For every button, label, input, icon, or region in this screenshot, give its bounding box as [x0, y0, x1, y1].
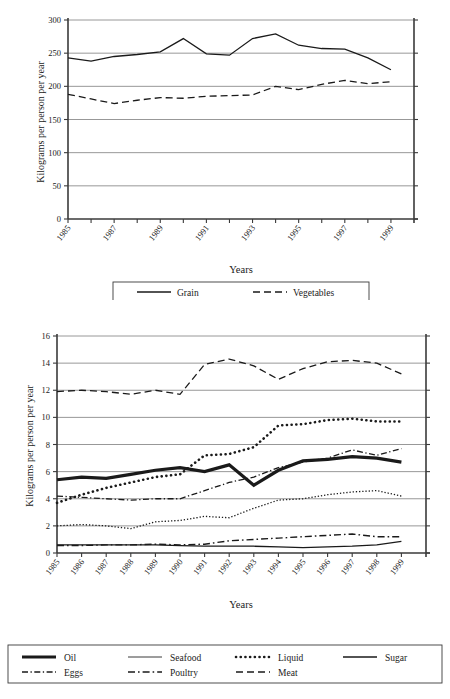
y-tick-label: 100: [48, 148, 61, 158]
legend-item-grain: Grain: [137, 288, 199, 298]
legend-label: Vegetables: [293, 288, 334, 298]
top-chart-x-tick-labels: 19851987198919911993199519971999: [54, 223, 395, 243]
legend-item-seafood: Seafood: [128, 653, 201, 663]
x-tick-label: 1995: [289, 557, 307, 577]
y-tick-label: 2: [46, 521, 50, 531]
top-chart-y-tick-labels: 050100150200250300: [48, 15, 61, 224]
legend-label: Liquid: [278, 653, 304, 663]
x-tick-label: 1999: [388, 557, 406, 577]
chart-page: 050100150200250300 198519871989199119931…: [0, 0, 450, 699]
series-line-oil: [57, 457, 401, 485]
y-tick-label: 250: [48, 48, 61, 58]
top-chart-x-axis-label: Years: [229, 264, 252, 275]
legend-label: Poultry: [170, 668, 198, 678]
legend-label: Seafood: [170, 653, 201, 663]
y-tick-label: 0: [57, 214, 61, 224]
x-tick-label: 1995: [285, 223, 303, 243]
legend-item-vegetables: Vegetables: [253, 288, 334, 298]
bottom-chart-svg: 0246810121416 19851986198719881989199019…: [0, 318, 450, 699]
x-tick-label: 1991: [191, 557, 209, 577]
x-tick-label: 1985: [54, 223, 72, 243]
x-tick-label: 1989: [146, 223, 164, 243]
y-tick-label: 8: [46, 440, 50, 450]
x-tick-label: 1988: [117, 557, 135, 577]
y-tick-label: 16: [42, 331, 51, 341]
legend-item-poultry: Poultry: [128, 668, 198, 678]
top-chart-svg: 050100150200250300 198519871989199119931…: [0, 0, 450, 300]
bottom-chart-legend: OilSeafoodLiquidSugarEggsPoultryMeat: [8, 645, 442, 683]
series-line-sugar: [57, 541, 401, 547]
bottom-chart-x-axis-label: Years: [229, 599, 252, 610]
bottom-chart-y-axis-label: Kilograms per person per year: [24, 385, 35, 507]
top-chart-y-axis-label: Kilograms per person per year: [35, 61, 46, 183]
legend-label: Sugar: [385, 653, 408, 663]
bottom-chart-axes: [53, 334, 430, 557]
x-tick-label: 1987: [100, 223, 118, 243]
legend-label: Oil: [64, 653, 77, 663]
y-tick-label: 14: [42, 358, 51, 368]
top-chart-axes: [64, 18, 418, 223]
x-tick-label: 1999: [377, 223, 395, 243]
series-line-meat: [57, 359, 401, 394]
top-chart-gridlines: [68, 20, 414, 186]
x-tick-label: 1997: [338, 557, 356, 577]
bottom-chart-gridlines: [57, 336, 426, 526]
x-tick-label: 1993: [239, 223, 257, 243]
bottom-chart-y-tick-labels: 0246810121416: [42, 331, 51, 558]
legend-label: Grain: [177, 288, 199, 298]
series-line-liquid: [57, 419, 401, 503]
legend-item-eggs: Eggs: [22, 668, 83, 678]
x-tick-label: 1998: [363, 557, 381, 577]
y-tick-label: 12: [42, 385, 51, 395]
x-tick-label: 1997: [331, 223, 349, 243]
y-tick-label: 10: [42, 412, 51, 422]
top-chart-figure: 050100150200250300 198519871989199119931…: [0, 0, 450, 300]
x-tick-label: 1985: [43, 557, 61, 577]
y-tick-label: 50: [53, 181, 62, 191]
series-line-grain: [68, 34, 391, 70]
y-tick-label: 4: [46, 494, 51, 504]
legend-item-sugar: Sugar: [343, 653, 408, 663]
y-tick-label: 0: [46, 548, 50, 558]
x-tick-label: 1991: [193, 223, 211, 243]
series-line-vegetables: [68, 80, 391, 103]
series-line-poultry: [57, 534, 401, 546]
y-tick-label: 300: [48, 15, 61, 25]
series-line-seafood: [57, 491, 401, 529]
x-tick-label: 1986: [68, 557, 86, 577]
legend-label: Meat: [278, 668, 298, 678]
y-tick-label: 150: [48, 115, 61, 125]
x-tick-label: 1987: [92, 557, 110, 577]
y-tick-label: 200: [48, 81, 61, 91]
top-chart-legend: GrainVegetables: [113, 282, 369, 300]
x-tick-label: 1992: [215, 557, 233, 577]
bottom-chart-series-group: [57, 359, 401, 548]
x-tick-label: 1990: [166, 557, 184, 577]
legend-item-oil: Oil: [22, 653, 77, 663]
x-tick-label: 1996: [314, 557, 332, 577]
legend-item-liquid: Liquid: [236, 653, 304, 663]
top-chart-series-group: [68, 34, 391, 104]
legend-item-meat: Meat: [236, 668, 298, 678]
legend-label: Eggs: [64, 668, 83, 678]
x-tick-label: 1994: [265, 556, 284, 576]
x-tick-label: 1989: [142, 557, 160, 577]
bottom-chart-figure: 0246810121416 19851986198719881989199019…: [0, 318, 450, 699]
bottom-chart-x-tick-labels: 1985198619871988198919901991199219931994…: [43, 556, 406, 576]
y-tick-label: 6: [46, 467, 50, 477]
x-tick-label: 1993: [240, 557, 258, 577]
